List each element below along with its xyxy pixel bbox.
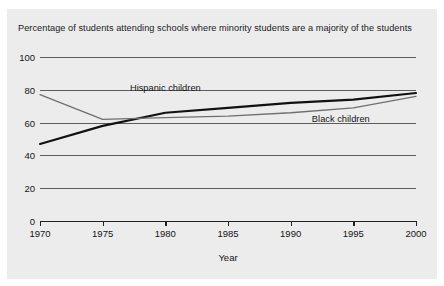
chart-title: Percentage of students attending schools… (18, 23, 422, 34)
y-axis-tick-label: 40 (24, 150, 35, 161)
x-axis-tick-label: 1970 (29, 228, 50, 239)
x-axis-tick (353, 221, 354, 226)
x-axis-title: Year (40, 252, 416, 263)
series-label: Hispanic children (130, 83, 201, 93)
series-lines (40, 57, 416, 221)
series-label: Black children (312, 114, 370, 124)
x-axis-tick (165, 221, 166, 226)
x-axis-tick-label: 2000 (405, 228, 426, 239)
y-axis-tick-label: 100 (19, 52, 35, 63)
x-axis-tick (291, 221, 292, 226)
x-axis-tick (228, 221, 229, 226)
x-axis-tick-label: 1980 (155, 228, 176, 239)
x-axis-tick (103, 221, 104, 226)
y-axis-tick-label: 20 (24, 183, 35, 194)
x-axis-tick-label: 1995 (343, 228, 364, 239)
chart-figure: Percentage of students attending schools… (0, 0, 444, 286)
plot-area: 100806040200 197019751980198519901995200… (40, 57, 416, 221)
x-axis-tick-label: 1975 (92, 228, 113, 239)
y-axis-tick-label: 60 (24, 117, 35, 128)
x-axis-tick (40, 221, 41, 226)
x-axis-tick-label: 1990 (280, 228, 301, 239)
x-axis-tick (416, 221, 417, 226)
y-axis-tick-label: 0 (30, 216, 35, 227)
x-axis-tick-label: 1985 (217, 228, 238, 239)
y-axis-tick-label: 80 (24, 84, 35, 95)
